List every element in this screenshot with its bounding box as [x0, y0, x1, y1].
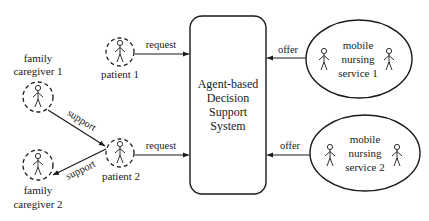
mobile-nursing-service-2-node: mobile nursing service 2 [310, 115, 420, 191]
mobile-nursing-service-1-node: mobile nursing service 1 [306, 20, 412, 98]
offer-1-label: offer [278, 44, 299, 55]
box-line-1: Agent-based [198, 77, 259, 91]
person-icon [33, 153, 43, 175]
family-caregiver-1-node: family caregiver 1 [13, 52, 62, 112]
patient-2-node: patient 2 [102, 139, 140, 182]
service-2-line-2: nursing [349, 147, 383, 159]
caregiver-1-label-line-1: family [24, 52, 53, 64]
request-1-edge: request [135, 39, 189, 54]
support-1-edge: support [48, 107, 105, 146]
person-icon [115, 141, 125, 163]
family-caregiver-2-node: family caregiver 2 [13, 150, 62, 210]
offer-2-edge: offer [267, 140, 310, 155]
person-icon [33, 85, 43, 107]
patient-2-label: patient 2 [102, 170, 140, 182]
service-1-line-1: mobile [343, 39, 374, 51]
request-2-label: request [146, 140, 176, 151]
service-2-line-1: mobile [350, 133, 381, 145]
decision-support-diagram: Agent-based Decision Support System pati… [0, 0, 429, 221]
service-1-line-2: nursing [342, 53, 376, 65]
caregiver-2-label-line-1: family [24, 184, 53, 196]
caregiver-1-label-line-2: caregiver 1 [13, 65, 62, 77]
request-2-edge: request [135, 140, 189, 155]
box-line-3: Support [209, 105, 248, 119]
service-2-line-3: service 2 [345, 161, 384, 173]
box-line-2: Decision [207, 91, 250, 105]
box-line-4: System [210, 119, 246, 133]
service-1-line-3: service 1 [338, 67, 377, 79]
offer-2-label: offer [280, 140, 301, 151]
support-1-label: support [66, 107, 99, 133]
offer-1-edge: offer [267, 44, 306, 58]
caregiver-2-label-line-2: caregiver 2 [13, 198, 62, 210]
patient-1-node: patient 1 [101, 38, 139, 80]
decision-support-system-box: Agent-based Decision Support System [190, 16, 266, 194]
patient-1-label: patient 1 [101, 68, 139, 80]
support-2-edge: support [53, 149, 106, 182]
request-1-label: request [146, 39, 176, 50]
person-icon [115, 40, 125, 62]
